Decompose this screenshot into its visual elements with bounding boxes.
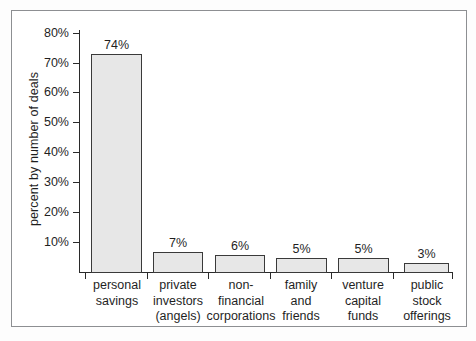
x-category-line: public [392, 278, 462, 294]
bar-public-stock[interactable] [404, 263, 449, 273]
y-tick-mark-60 [73, 92, 80, 93]
x-category-line: offerings [392, 309, 462, 325]
y-tick-label-20: 20% [27, 206, 69, 218]
bar-venture-capital-funds[interactable] [338, 258, 389, 273]
bar-value-label-5: 3% [404, 247, 449, 261]
y-tick-mark-20 [73, 212, 80, 213]
x-category-line: venture [330, 278, 396, 294]
y-tick-mark-40 [73, 152, 80, 153]
x-category-line: funds [330, 309, 396, 325]
x-category-line: and [268, 294, 334, 310]
x-category-label-3: family and friends [268, 278, 334, 325]
x-category-line: family [268, 278, 334, 294]
x-category-line: stock [392, 294, 462, 310]
bar-value-label-0: 74% [91, 38, 142, 52]
y-tick-mark-80 [73, 33, 80, 34]
bar-value-label-1: 7% [153, 236, 203, 250]
y-tick-label-30: 30% [27, 176, 69, 188]
y-tick-mark-30 [73, 182, 80, 183]
y-tick-mark-50 [73, 122, 80, 123]
y-tick-mark-10 [73, 242, 80, 243]
y-tick-label-70: 70% [27, 57, 69, 69]
figure-canvas: percent by number of deals 80% 70% 60% 5… [0, 0, 476, 341]
bar-value-label-4: 5% [338, 242, 389, 256]
bar-value-label-3: 5% [276, 242, 327, 256]
x-category-line: friends [268, 309, 334, 325]
y-tick-label-50: 50% [27, 116, 69, 128]
bar-family-and-friends[interactable] [276, 258, 327, 273]
x-category-label-5: public stock offerings [392, 278, 462, 325]
y-tick-mark-70 [73, 63, 80, 64]
x-category-line: capital [330, 294, 396, 310]
bar-private-investors[interactable] [153, 252, 203, 273]
y-tick-label-40: 40% [27, 146, 69, 158]
bar-value-label-2: 6% [215, 239, 265, 253]
plot-area: percent by number of deals 80% 70% 60% 5… [0, 0, 476, 341]
y-tick-label-80: 80% [27, 27, 69, 39]
x-category-line: savings [82, 294, 152, 310]
y-tick-label-60: 60% [27, 86, 69, 98]
bar-personal-savings[interactable] [91, 54, 142, 273]
x-category-line: personal [82, 278, 152, 294]
x-category-label-0: personal savings [82, 278, 152, 309]
bar-non-financial-corps[interactable] [215, 255, 265, 273]
x-category-label-4: venture capital funds [330, 278, 396, 325]
y-tick-label-10: 10% [27, 236, 69, 248]
